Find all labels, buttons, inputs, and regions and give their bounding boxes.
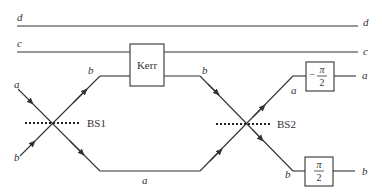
- arrow-icon: [208, 84, 219, 95]
- phase-top-input-label: a: [291, 84, 297, 96]
- arrow-icon: [70, 141, 84, 155]
- upper-arm-label-out: b: [202, 64, 208, 76]
- rail-c: c c: [17, 37, 368, 57]
- arrow-icon: [253, 105, 265, 117]
- bs1-label: BS1: [87, 117, 106, 129]
- phase-top-output-label: a: [362, 69, 368, 81]
- arrow-icon: [210, 149, 222, 161]
- phase-bottom-output-label: b: [362, 165, 368, 177]
- rail-d: d d: [17, 11, 369, 28]
- input-a-label: a: [14, 78, 20, 90]
- arrow-icon: [73, 89, 87, 103]
- path-a-to-lower: [33, 104, 100, 171]
- phase-top-sign: −: [309, 69, 315, 80]
- arrow-icon: [18, 89, 33, 104]
- phase-bottom-denominator: 2: [317, 172, 322, 183]
- rail-c-label-left: c: [17, 37, 22, 49]
- rail-d-label-left: d: [17, 11, 23, 23]
- kerr-label: Kerr: [137, 59, 157, 71]
- kerr-medium: Kerr: [130, 44, 164, 86]
- input-b-label: b: [14, 151, 20, 163]
- rail-c-label-right: c: [363, 45, 368, 57]
- phase-shifter-pi-over-2: b π 2 b: [285, 157, 368, 186]
- upper-arm-label-in: b: [88, 64, 94, 76]
- lower-arm-label: a: [142, 174, 148, 186]
- rail-d-label-right: d: [363, 16, 369, 28]
- path-b-to-upper: [35, 76, 100, 141]
- phase-shifter-neg-pi-over-2: a − π 2 a: [291, 62, 368, 96]
- phase-bottom-input-label: b: [285, 168, 291, 180]
- bs2-label: BS2: [277, 118, 296, 130]
- phase-top-denominator: 2: [320, 77, 325, 88]
- arrow-icon: [253, 130, 263, 141]
- interferometer-diagram: d d c c Kerr a b BS1 b b a: [0, 0, 382, 195]
- arrow-icon: [20, 141, 35, 156]
